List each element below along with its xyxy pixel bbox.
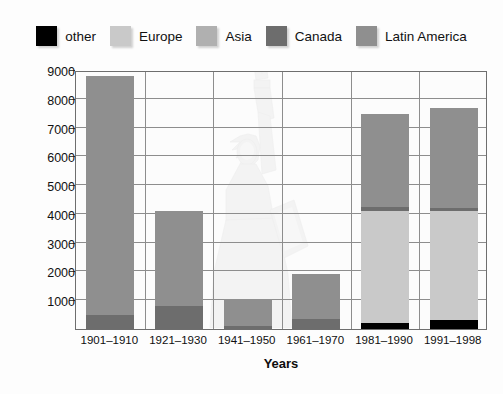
bar-segment-europe — [361, 211, 409, 323]
legend-item-label: Europe — [139, 29, 183, 44]
bar-segment-europe — [430, 211, 478, 320]
bar-segment-latin-america — [361, 114, 409, 208]
y-axis-tick-label: 8000 — [47, 94, 75, 108]
legend-item-label: Canada — [295, 29, 342, 44]
chart-page: otherEuropeAsiaCanadaLatin America Numbe… — [0, 0, 503, 394]
legend-swatch-icon — [196, 26, 217, 46]
legend-item-label: Asia — [225, 29, 251, 44]
legend-item-latin-america: Latin America — [356, 26, 467, 46]
x-axis-labels: 1901–19101921–19301941–19501961–19701981… — [75, 334, 487, 352]
bar-segment-latin-america — [292, 274, 340, 319]
y-axis-tick-label: 6000 — [47, 151, 75, 165]
chart-legend: otherEuropeAsiaCanadaLatin America — [0, 18, 503, 54]
x-axis-tick-label: 1941–1950 — [218, 334, 276, 346]
y-axis-tick-label: 2000 — [47, 266, 75, 280]
y-axis-tick-label: 3000 — [47, 238, 75, 252]
bar-segment-other — [361, 323, 409, 329]
bar-1981-1990 — [361, 114, 409, 329]
bar-group — [76, 72, 486, 329]
bar-1961-1970 — [292, 274, 340, 329]
y-axis-tick-label: 4000 — [47, 209, 75, 223]
plot-area — [75, 71, 487, 330]
legend-swatch-icon — [266, 26, 287, 46]
x-axis-tick-label: 1981–1990 — [355, 334, 413, 346]
bar-1941-1950 — [224, 299, 272, 329]
bar-segment-latin-america — [86, 76, 134, 315]
legend-item-canada: Canada — [266, 26, 342, 46]
legend-swatch-icon — [110, 26, 131, 46]
y-axis-tick-label: 5000 — [47, 180, 75, 194]
legend-item-asia: Asia — [196, 26, 251, 46]
bar-segment-latin-america — [155, 211, 203, 306]
plot-background — [75, 71, 487, 330]
bar-segment-latin-america — [430, 108, 478, 207]
bar-segment-canada — [155, 306, 203, 329]
x-axis-tick-label: 1921–1930 — [149, 334, 207, 346]
bar-1901-1910 — [86, 76, 134, 329]
legend-item-europe: Europe — [110, 26, 183, 46]
y-axis-tick-label: 7000 — [47, 123, 75, 137]
legend-item-label: Latin America — [385, 29, 467, 44]
bar-1991-1998 — [430, 108, 478, 329]
bar-segment-canada — [86, 315, 134, 329]
y-axis-tick-label: 1000 — [47, 295, 75, 309]
legend-item-other: other — [36, 26, 96, 46]
bar-segment-canada — [224, 326, 272, 329]
bar-segment-other — [430, 320, 478, 329]
x-axis-title: Years — [75, 356, 487, 371]
bar-segment-canada — [292, 319, 340, 329]
x-axis-tick-label: 1991–1998 — [424, 334, 482, 346]
legend-swatch-icon — [36, 26, 57, 46]
bar-1921-1930 — [155, 211, 203, 329]
legend-item-label: other — [65, 29, 96, 44]
legend-swatch-icon — [356, 26, 377, 46]
x-axis-tick-label: 1901–1910 — [81, 334, 139, 346]
y-axis-tick-label: 9000 — [47, 65, 75, 79]
bar-segment-latin-america — [224, 299, 272, 326]
x-axis-tick-label: 1961–1970 — [287, 334, 345, 346]
